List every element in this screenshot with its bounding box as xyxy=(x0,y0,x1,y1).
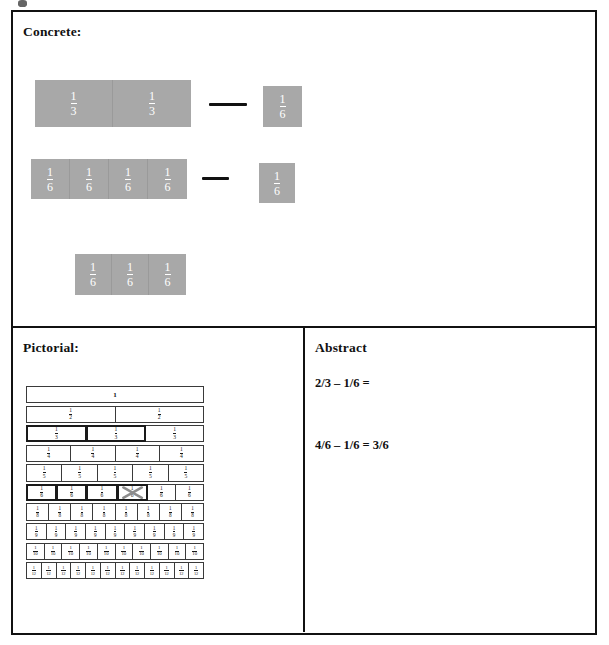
tile-numerator: 1 xyxy=(165,261,171,273)
fraction-numerator: 1 xyxy=(70,486,73,492)
fraction-wall-cell-label: 112 xyxy=(194,566,198,577)
fraction-numerator: 1 xyxy=(123,546,125,551)
fraction-numerator: 1 xyxy=(166,566,168,570)
fraction-numerator: 1 xyxy=(35,526,38,531)
fraction-wall-row-sixths: 161616161616 xyxy=(26,484,204,501)
fraction-denominator: 9 xyxy=(153,531,156,538)
fraction-wall-cell-ninths: 19 xyxy=(65,523,86,540)
fraction-wall-cell-label: 14 xyxy=(180,447,183,460)
fraction-wall-cell-tenths: 110 xyxy=(79,543,98,560)
tile-numerator: 1 xyxy=(71,90,77,102)
tile-numerator: 1 xyxy=(165,166,171,178)
fraction-wall-cell-eighths: 18 xyxy=(181,503,204,520)
tile-one-sixth: 1 6 xyxy=(70,159,109,199)
fraction-numerator: 1 xyxy=(176,546,178,551)
fraction-wall-row-ninths: 191919191919191919 xyxy=(26,523,204,540)
fraction-wall-cell-label: 19 xyxy=(94,526,97,538)
fraction-wall-cell-ninths: 19 xyxy=(105,523,126,540)
fraction-denominator: 6 xyxy=(131,492,134,499)
fraction-denominator: 4 xyxy=(91,453,94,460)
fraction-wall-cell-label: 112 xyxy=(46,566,50,577)
tile-denominator: 6 xyxy=(165,274,171,288)
panel-abstract: Abstract 2/3 – 1/6 = 4/6 – 1/6 = 3/6 xyxy=(305,328,594,632)
concrete-row-2-left-group: 1 6 1 6 1 6 xyxy=(31,159,187,199)
fraction-denominator: 10 xyxy=(175,551,180,557)
fraction-wall-cell-label: 110 xyxy=(33,546,38,557)
fraction-wall-cell-label: 112 xyxy=(164,566,168,577)
fraction-wall-cell-label: 16 xyxy=(40,486,43,499)
fraction-wall-cell-eighths: 18 xyxy=(48,503,71,520)
fraction-wall-cell-eighths: 18 xyxy=(70,503,93,520)
fraction-wall-cell-eighths: 18 xyxy=(159,503,182,520)
fraction-denominator: 5 xyxy=(149,472,152,479)
fraction-numerator: 1 xyxy=(125,506,128,511)
fraction-wall-cell-label: 112 xyxy=(61,566,65,577)
fraction-numerator: 1 xyxy=(140,546,142,551)
fraction-numerator: 1 xyxy=(173,526,176,531)
fraction-wall-cell-label: 19 xyxy=(114,526,117,538)
fraction-wall-cell-label: 18 xyxy=(191,506,194,518)
fraction-numerator: 1 xyxy=(191,506,194,511)
fraction-numerator: 1 xyxy=(114,526,117,531)
tile-denominator: 6 xyxy=(127,274,133,288)
abstract-equation-line-2: 4/6 – 1/6 = 3/6 xyxy=(315,438,389,453)
fraction-wall-cell-tenths: 110 xyxy=(44,543,63,560)
abstract-heading: Abstract xyxy=(315,340,367,356)
fraction-wall-cell-label: 14 xyxy=(47,447,50,460)
fraction-numerator: 1 xyxy=(107,566,109,570)
minus-operator-icon xyxy=(209,103,247,106)
fraction-wall-cell-tenths: 110 xyxy=(185,543,204,560)
fraction-numerator: 1 xyxy=(103,506,106,511)
fraction-denominator: 3 xyxy=(173,433,176,440)
fraction-wall-cell-twelfths: 112 xyxy=(26,562,42,579)
tile-denominator: 6 xyxy=(280,106,286,120)
tile-one-third: 1 3 xyxy=(113,80,191,127)
fraction-denominator: 9 xyxy=(173,531,176,538)
fraction-wall-cell-twelfths: 112 xyxy=(85,562,101,579)
fraction-wall-row-thirds: 131313 xyxy=(26,425,204,442)
fraction-wall-cell-tenths: 110 xyxy=(26,543,45,560)
fraction-wall-cell-label: 110 xyxy=(104,546,109,557)
fraction-wall-cell-label: 112 xyxy=(91,566,95,577)
fraction-denominator: 9 xyxy=(133,531,136,538)
tile-numerator: 1 xyxy=(90,261,96,273)
fraction-numerator: 1 xyxy=(136,566,138,570)
fraction-wall-cell-label: 15 xyxy=(43,466,46,479)
fraction-denominator: 12 xyxy=(150,570,154,576)
fraction-numerator: 1 xyxy=(55,526,58,531)
fraction-wall-cell-ninths: 19 xyxy=(164,523,185,540)
fraction-denominator: 8 xyxy=(191,512,194,519)
tile-denominator: 6 xyxy=(274,183,280,197)
fraction-numerator: 1 xyxy=(58,506,61,511)
concrete-row-1-left-group: 1 3 1 3 xyxy=(35,80,191,127)
fraction-wall-cell-thirds: 13 xyxy=(26,425,87,442)
fraction-numerator: 1 xyxy=(47,447,50,453)
fraction-wall-cell-label: 16 xyxy=(70,486,73,499)
fraction-numerator: 1 xyxy=(105,546,107,551)
fraction-denominator: 12 xyxy=(135,570,139,576)
fraction-denominator: 8 xyxy=(103,512,106,519)
fraction-wall-cell-label: 110 xyxy=(51,546,56,557)
fraction-wall-cell-tenths: 110 xyxy=(97,543,116,560)
fraction-wall-cell-halves: 12 xyxy=(26,406,116,423)
panel-pictorial: Pictorial: 11212131313141414141515151515… xyxy=(13,328,305,632)
tile-one-sixth: 1 6 xyxy=(75,254,112,295)
fraction-wall-cell-label: 19 xyxy=(173,526,176,538)
fraction-denominator: 9 xyxy=(55,531,58,538)
fraction-numerator: 1 xyxy=(55,427,58,433)
fraction-wall-row-whole: 1 xyxy=(26,386,204,403)
fraction-wall-cell-fourths: 14 xyxy=(115,445,160,462)
fraction-wall-cell-label: 18 xyxy=(125,506,128,518)
fraction-wall-cell-ninths: 19 xyxy=(46,523,67,540)
fraction-wall-cell-label: 112 xyxy=(105,566,109,577)
fraction-wall-cell-label: 110 xyxy=(68,546,73,557)
fraction-numerator: 1 xyxy=(158,546,160,551)
fraction-wall-cell-sixths: 16 xyxy=(175,484,204,501)
fraction-wall-cell-label: 18 xyxy=(147,506,150,518)
fraction-numerator: 1 xyxy=(188,486,191,492)
fraction-wall-cell-tenths: 110 xyxy=(132,543,151,560)
fraction-wall-cell-sixths: 16 xyxy=(117,484,148,501)
tile-one-sixth: 1 6 xyxy=(148,159,187,199)
fraction-numerator: 1 xyxy=(52,546,54,551)
fraction-wall-cell-label: 112 xyxy=(120,566,124,577)
